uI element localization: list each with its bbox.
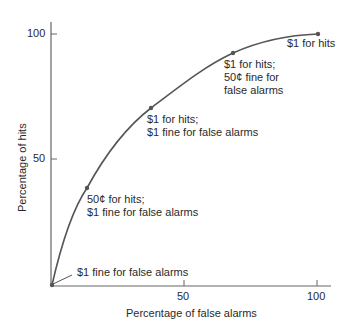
data-point [85,186,89,190]
x-tick-100: 100 [307,290,325,302]
annotation-point-3: $1 for hits; 50¢ fine for false alarms [224,58,283,97]
annotation-origin: $1 fine for false alarms [77,266,188,279]
x-tick-50: 50 [177,290,189,302]
annotation-point-2: $1 for hits; $1 fine for false alarms [147,113,258,139]
y-axis-label: Percentage of hits [16,123,28,212]
data-point [231,51,235,55]
data-point [316,32,320,36]
annotation-leader [53,275,72,284]
y-tick-50: 50 [33,152,45,164]
annotation-point-4: $1 for hits [287,37,335,50]
y-tick-100: 100 [27,27,45,39]
annotation-point-1: 50¢ for hits; $1 fine for false alarms [87,193,198,219]
x-axis-label: Percentage of false alarms [126,307,257,319]
data-point [149,106,153,110]
